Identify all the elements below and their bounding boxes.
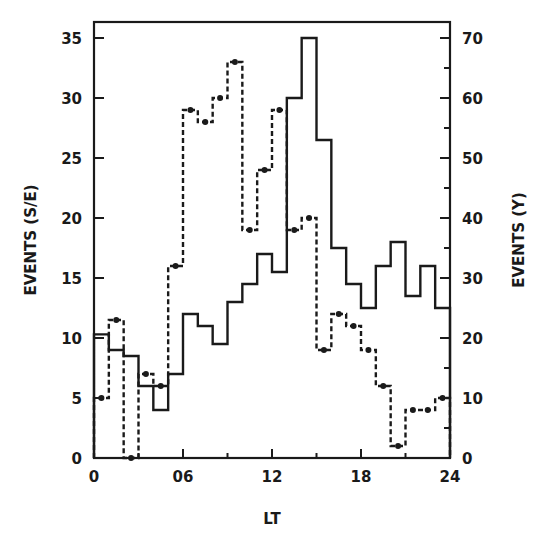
- x-tick-label: 0: [89, 468, 99, 486]
- right-y-tick-label: 30: [462, 270, 483, 288]
- left-y-tick-label: 20: [61, 210, 82, 228]
- series-s-e-solid: [94, 38, 450, 458]
- data-point-marker: [143, 371, 149, 377]
- events-histogram-chart: 00612182405101520253035010203040506070 L…: [0, 0, 545, 552]
- left-y-tick-label: 5: [72, 390, 82, 408]
- data-point-marker: [217, 95, 223, 101]
- data-point-marker: [306, 215, 312, 221]
- right-y-tick-label: 20: [462, 330, 483, 348]
- left-y-tick-label: 15: [61, 270, 82, 288]
- x-tick-label: 24: [440, 468, 461, 486]
- left-y-tick-label: 0: [72, 450, 82, 468]
- x-tick-label: 12: [262, 468, 283, 486]
- left-y-tick-label: 30: [61, 90, 82, 108]
- data-point-marker: [247, 227, 253, 233]
- right-y-tick-label: 40: [462, 210, 483, 228]
- axis-ticks: [94, 38, 450, 458]
- data-point-marker: [410, 407, 416, 413]
- data-point-marker: [232, 59, 238, 65]
- data-point-marker: [187, 107, 193, 113]
- data-point-marker: [113, 317, 119, 323]
- left-y-tick-label: 10: [61, 330, 82, 348]
- data-point-marker: [158, 383, 164, 389]
- plot-frame: [94, 22, 450, 458]
- data-point-marker: [365, 347, 371, 353]
- data-point-marker: [321, 347, 327, 353]
- data-point-marker: [128, 455, 134, 461]
- data-point-marker: [262, 167, 268, 173]
- solid-step-line: [94, 38, 450, 458]
- data-point-marker: [276, 107, 282, 113]
- data-point-marker: [425, 407, 431, 413]
- data-point-marker: [440, 395, 446, 401]
- x-axis-title: LT: [263, 510, 281, 528]
- x-tick-label: 18: [351, 468, 372, 486]
- data-point-marker: [380, 383, 386, 389]
- data-point-marker: [351, 323, 357, 329]
- data-point-marker: [98, 395, 104, 401]
- right-y-tick-label: 10: [462, 390, 483, 408]
- right-y-tick-label: 70: [462, 30, 483, 48]
- data-point-marker: [173, 263, 179, 269]
- right-y-tick-label: 60: [462, 90, 483, 108]
- left-y-tick-label: 25: [61, 150, 82, 168]
- right-y-tick-label: 0: [462, 450, 472, 468]
- plot-border: [94, 22, 450, 458]
- left-y-tick-label: 35: [61, 30, 82, 48]
- data-point-marker: [395, 443, 401, 449]
- right-y-tick-label: 50: [462, 150, 483, 168]
- data-point-marker: [336, 311, 342, 317]
- left-y-axis-title: EVENTS (S/E): [22, 184, 40, 295]
- right-y-axis-title: EVENTS (Y): [510, 192, 528, 288]
- data-point-marker: [202, 119, 208, 125]
- data-point-marker: [291, 227, 297, 233]
- x-tick-label: 06: [173, 468, 194, 486]
